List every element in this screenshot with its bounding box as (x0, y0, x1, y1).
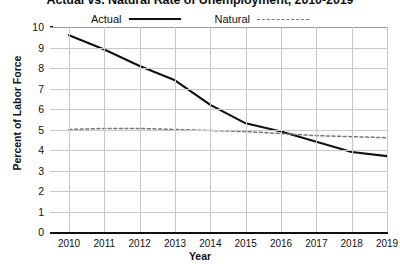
x-tick-label: 2013 (155, 238, 195, 249)
x-tick-label: 2010 (49, 238, 89, 249)
unemployment-line-chart: Actual vs. Natural Rate of Unemployment,… (0, 0, 400, 265)
y-tick-label: 1 (22, 206, 44, 218)
y-tick-label: 10 (22, 21, 44, 33)
x-tick-label: 2017 (296, 238, 336, 249)
y-tick-labels: 012345678910 (0, 0, 400, 265)
y-tick-label: 0 (22, 226, 44, 238)
x-tick-label: 2018 (332, 238, 372, 249)
x-tick-label: 2019 (367, 238, 400, 249)
y-tick-label: 6 (22, 103, 44, 115)
y-axis-title: Percent of Labor Force (11, 43, 23, 183)
x-tick-label: 2014 (190, 238, 230, 249)
x-axis-title: Year (0, 250, 400, 262)
x-tick-label: 2015 (226, 238, 266, 249)
y-tick-label: 5 (22, 124, 44, 136)
x-tick-label: 2016 (261, 238, 301, 249)
y-tick-label: 9 (22, 42, 44, 54)
y-tick-label: 8 (22, 62, 44, 74)
y-tick-label: 7 (22, 83, 44, 95)
y-tick-label: 3 (22, 165, 44, 177)
y-tick-label: 2 (22, 185, 44, 197)
x-tick-label: 2012 (120, 238, 160, 249)
x-tick-label: 2011 (84, 238, 124, 249)
y-tick-label: 4 (22, 144, 44, 156)
